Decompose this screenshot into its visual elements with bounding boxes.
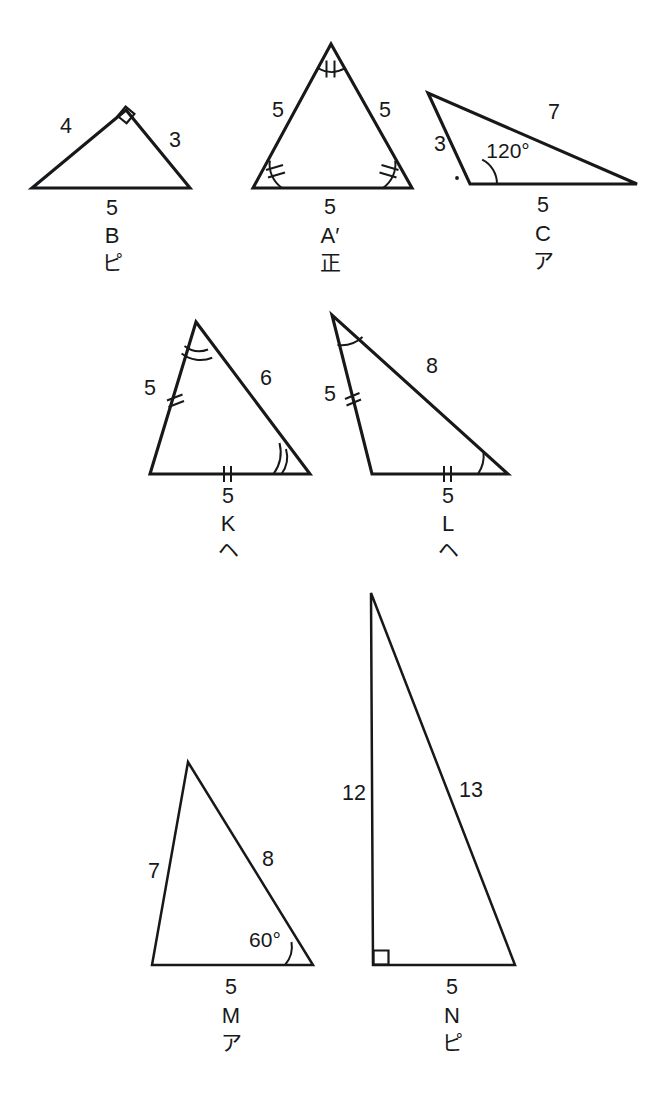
triangle-k-side-right-label: 6	[260, 366, 272, 390]
triangle-n-side-right-label: 13	[459, 778, 483, 802]
triangle-c-side-base-label: 5	[537, 193, 549, 217]
figure-triangle-n: 12 13 5 N ピ	[342, 593, 515, 1055]
figure-triangle-k: 5 6 5 K ヘ	[144, 322, 310, 562]
triangle-k-side-base-label: 5	[222, 484, 234, 508]
triangle-n-side-base-label: 5	[446, 975, 458, 999]
triangle-b-kana-label: ピ	[102, 251, 123, 275]
triangle-a-prime-side-right-label: 5	[379, 98, 391, 122]
triangle-k-side-left-label: 5	[144, 376, 156, 400]
triangle-a-prime-side-base-label: 5	[324, 195, 336, 219]
triangle-b-side-right-label: 3	[169, 128, 181, 152]
triangle-m-outline	[152, 762, 313, 965]
triangles-figure-canvas: 4 3 5 B ピ 5 5 5 A′ 正	[0, 0, 656, 1106]
triangle-c-angle-label: 120°	[486, 139, 529, 162]
angle-arc-icon	[285, 942, 292, 965]
figure-triangle-a-prime: 5 5 5 A′ 正	[253, 44, 412, 275]
vertex-dot-icon	[455, 176, 459, 180]
triangle-n-name-label: N	[444, 1003, 460, 1028]
triangle-n-kana-label: ピ	[442, 1031, 463, 1055]
apex-angle-arc-icon	[319, 69, 345, 72]
triangle-m-name-label: M	[222, 1003, 240, 1028]
figure-sheet: 4 3 5 B ピ 5 5 5 A′ 正	[0, 0, 656, 1106]
triangle-l-name-label: L	[442, 511, 454, 536]
triangle-m-angle-label: 60°	[249, 928, 281, 951]
triangle-n-outline	[371, 593, 515, 965]
figure-triangle-b: 4 3 5 B ピ	[32, 107, 190, 275]
triangle-b-name-label: B	[105, 223, 120, 248]
angle-arc-icon	[482, 160, 497, 184]
figure-triangle-m: 7 8 60° 5 M ア	[148, 762, 313, 1055]
triangle-b-side-base-label: 5	[106, 196, 118, 220]
triangle-m-side-right-label: 8	[262, 847, 274, 871]
figure-triangle-c: 3 7 120° 5 C ア	[428, 93, 637, 273]
triangle-l-side-left-label: 5	[324, 382, 336, 406]
triangle-n-side-left-label: 12	[342, 781, 366, 805]
triangle-l-side-right-label: 8	[426, 354, 438, 378]
triangle-m-side-base-label: 5	[225, 975, 237, 999]
triangle-c-side-left-label: 3	[434, 132, 446, 156]
triangle-k-kana-label: ヘ	[218, 538, 239, 562]
triangle-c-kana-label: ア	[533, 249, 554, 273]
bottom-right-angle-arc-icon	[478, 452, 484, 474]
bottom-right-angle-arc-icon	[274, 443, 281, 474]
triangle-a-prime-kana-label: 正	[320, 251, 341, 275]
triangle-b-side-left-label: 4	[60, 114, 72, 138]
triangle-k-name-label: K	[221, 511, 236, 536]
triangle-l-kana-label: ヘ	[438, 538, 459, 562]
triangle-c-name-label: C	[535, 221, 551, 246]
bottom-left-angle-tick-icon	[266, 165, 283, 170]
right-angle-icon	[374, 951, 389, 965]
triangle-l-side-base-label: 5	[442, 484, 454, 508]
triangle-b-outline	[32, 110, 190, 188]
triangle-m-side-left-label: 7	[148, 859, 160, 883]
triangle-a-prime-name-label: A′	[321, 223, 340, 248]
triangle-m-kana-label: ア	[221, 1031, 242, 1055]
triangle-c-outline	[428, 93, 637, 184]
triangle-c-side-right-label: 7	[548, 100, 560, 124]
bottom-right-angle-arc-icon	[282, 449, 288, 474]
triangle-a-prime-side-left-label: 5	[272, 98, 284, 122]
figure-triangle-l: 5 8 5 L ヘ	[324, 315, 508, 562]
